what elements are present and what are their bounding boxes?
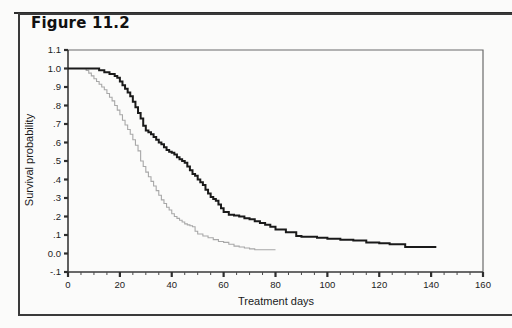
survival-curve-group-2 [68,69,276,250]
axis-lines [68,50,483,272]
x-tick-label: 120 [371,279,387,290]
y-tick-label: 1.0 [48,63,61,74]
y-tick-label: -.1 [50,266,61,277]
plot-frame [68,50,483,272]
y-axis-tick-labels: -.10.0.1.2.3.4.5.6.7.8.91.01.1 [48,44,61,277]
x-axis-tick-labels: 020406080100120140160 [65,279,491,290]
x-tick-label: 60 [218,279,229,290]
y-tick-label: .1 [53,229,61,240]
y-tick-label: .6 [53,137,61,148]
data-curves [68,69,436,250]
x-tick-label: 0 [65,279,70,290]
axis-ticks [64,50,483,277]
chart-container: -.10.0.1.2.3.4.5.6.7.8.91.01.1 020406080… [0,0,512,328]
survival-curve-chart: -.10.0.1.2.3.4.5.6.7.8.91.01.1 020406080… [0,0,512,328]
x-tick-label: 160 [475,279,491,290]
y-tick-label: .5 [53,155,61,166]
y-tick-label: 1.1 [48,44,61,55]
y-tick-label: .2 [53,211,61,222]
y-tick-label: .3 [53,192,61,203]
x-axis-title: Treatment days [238,295,315,307]
y-tick-label: 0.0 [48,248,61,259]
plot-box-outline [68,50,483,272]
x-tick-label: 40 [166,279,177,290]
x-tick-label: 80 [270,279,281,290]
y-tick-label: .7 [53,118,61,129]
y-tick-label: .9 [53,81,61,92]
survival-curve-group-1 [68,69,436,248]
x-tick-label: 100 [319,279,335,290]
x-tick-label: 140 [423,279,439,290]
y-tick-label: .8 [53,100,61,111]
y-tick-label: .4 [53,174,61,185]
x-tick-label: 20 [115,279,126,290]
y-axis-title: Survival probability [23,113,35,206]
